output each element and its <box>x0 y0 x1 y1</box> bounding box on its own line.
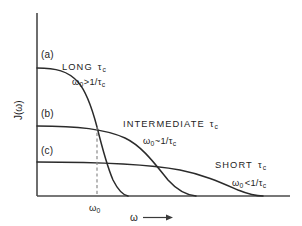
curve-a-regime-label: LONGτc <box>62 62 107 73</box>
spectral-density-figure: (a) (b) (c) LONGτc ω0>1/τc INTERMEDIATEτ… <box>0 0 302 226</box>
curve-c-condition-label: ω0<1/τc <box>232 178 267 189</box>
curve-b-id-label: (b) <box>41 108 54 119</box>
curve-b-regime-label: INTERMEDIATEτc <box>123 119 219 130</box>
plot-svg: (a) (b) (c) LONGτc ω0>1/τc INTERMEDIATEτ… <box>0 0 302 226</box>
curve-c-id-label: (c) <box>41 145 53 156</box>
curve-c-regime-label: SHORTτc <box>215 160 267 171</box>
curve-a-id-label: (a) <box>41 49 54 60</box>
curve-a-condition-label: ω0>1/τc <box>72 77 106 88</box>
x-axis-label: ω <box>130 212 138 223</box>
omega0-tick-label: ω0 <box>89 202 100 214</box>
y-axis-label: J(ω) <box>13 101 24 120</box>
x-axis-arrow-head-icon <box>166 215 173 221</box>
curve-b-condition-label: ω0~1/τc <box>143 136 177 147</box>
